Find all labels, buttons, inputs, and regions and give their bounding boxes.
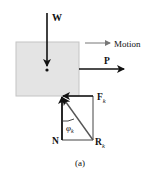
figure-caption: (a) — [75, 158, 85, 168]
resultant-force-arrow — [63, 98, 93, 140]
friction-force-label: Fk — [97, 92, 106, 104]
motion-label: Motion — [114, 39, 141, 49]
friction-angle-label: φk — [66, 123, 74, 134]
normal-force-label: N — [52, 136, 59, 146]
friction-angle-arc — [62, 119, 74, 121]
diagram-canvas: W Motion P Fk N Rk φk (a) — [0, 0, 157, 178]
push-force-label: P — [104, 56, 110, 66]
free-body-diagram: W Motion P Fk N Rk φk (a) — [0, 0, 157, 178]
resultant-force-label: Rk — [95, 137, 105, 149]
center-of-mass-dot — [45, 68, 48, 71]
weight-label: W — [52, 12, 62, 23]
